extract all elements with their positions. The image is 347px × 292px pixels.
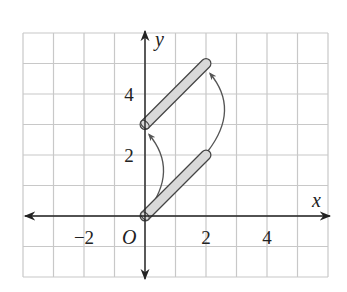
translation-arrow bbox=[208, 74, 225, 152]
y-tick-label: 2 bbox=[124, 145, 134, 166]
grid-lines bbox=[23, 33, 328, 277]
x-tick-label: −2 bbox=[74, 227, 94, 248]
translated-rod bbox=[139, 64, 206, 131]
coordinate-plane: x y O −22424 bbox=[0, 0, 347, 292]
original-rod bbox=[139, 155, 206, 222]
axis-labels: x y O −22424 bbox=[74, 28, 321, 248]
rods bbox=[139, 64, 206, 222]
y-tick-label: 4 bbox=[124, 84, 134, 105]
x-tick-label: 4 bbox=[262, 227, 272, 248]
x-axis-label: x bbox=[311, 189, 321, 211]
x-tick-label: 2 bbox=[201, 227, 211, 248]
origin-label: O bbox=[122, 226, 136, 248]
y-axis-label: y bbox=[153, 28, 164, 51]
